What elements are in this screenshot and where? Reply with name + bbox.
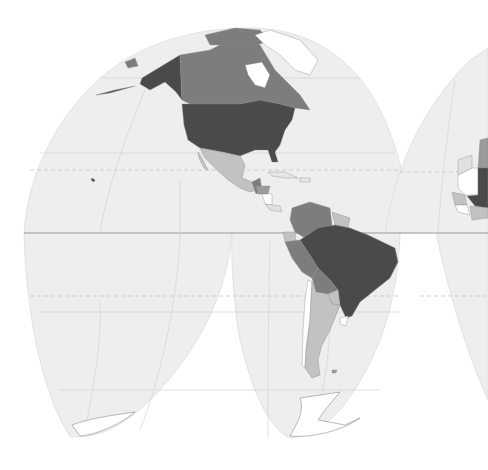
map-canvas: [0, 0, 488, 470]
region-burkina-faso[interactable]: [470, 206, 488, 220]
world-map: [0, 0, 488, 470]
region-falklands: [332, 370, 337, 373]
region-ecuador[interactable]: [283, 232, 296, 242]
map-lobe-eurasia-africa: [385, 48, 488, 233]
map-lobe-south-pacific: [24, 233, 232, 437]
map-lobe-africa-south: [436, 233, 488, 400]
region-hispaniola: [300, 178, 310, 182]
region-honduras[interactable]: [256, 186, 270, 194]
